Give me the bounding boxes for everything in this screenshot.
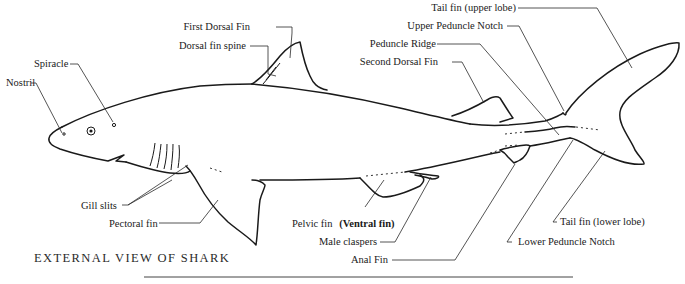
label-lower-peduncle-notch: Lower Peduncle Notch bbox=[518, 236, 616, 247]
label-pelvic-fin: Pelvic fin (Ventral fin) bbox=[292, 218, 395, 230]
label-male-claspers: Male claspers bbox=[319, 236, 377, 247]
label-dorsal-fin-spine: Dorsal fin spine bbox=[179, 40, 246, 51]
label-tail-fin-upper-lobe: Tail fin (upper lobe) bbox=[431, 2, 516, 14]
label-ventral-fin-text: (Ventral fin) bbox=[339, 218, 395, 230]
label-spiracle: Spiracle bbox=[34, 58, 69, 69]
label-pectoral-fin: Pectoral fin bbox=[109, 218, 158, 229]
label-tail-fin-lower-lobe: Tail fin (lower lobe) bbox=[560, 216, 645, 228]
label-second-dorsal-fin: Second Dorsal Fin bbox=[360, 56, 439, 67]
label-pelvic-fin-text: Pelvic fin bbox=[292, 218, 333, 229]
label-anal-fin: Anal Fin bbox=[351, 254, 389, 265]
label-peduncle-ridge: Peduncle Ridge bbox=[370, 38, 437, 49]
shark-outline bbox=[49, 42, 679, 245]
diagram-caption: EXTERNAL VIEW OF SHARK bbox=[34, 251, 230, 265]
label-first-dorsal-fin: First Dorsal Fin bbox=[183, 21, 250, 32]
label-upper-peduncle-notch: Upper Peduncle Notch bbox=[407, 20, 503, 31]
label-nostril: Nostril bbox=[6, 77, 35, 88]
shark-diagram: First Dorsal Fin Dorsal fin spine Spirac… bbox=[0, 0, 685, 284]
label-gill-slits: Gill slits bbox=[81, 200, 117, 211]
